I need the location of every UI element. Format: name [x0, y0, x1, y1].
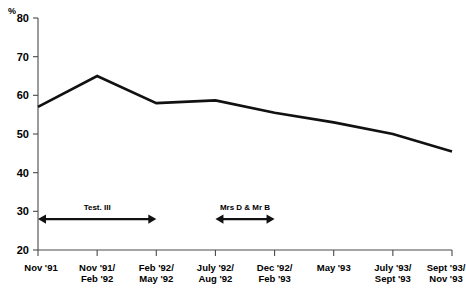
x-tick-label: Feb '92 [81, 273, 113, 284]
y-tick-label: 70 [17, 51, 29, 63]
x-tick-label: Sept '93/ [427, 262, 466, 273]
y-tick-label: 80 [17, 12, 29, 24]
x-tick-label: Nov '91 [24, 262, 58, 273]
y-tick-label: 20 [17, 244, 29, 256]
line-chart-figure: 80706050403020 % Nov '91Nov '91/Feb '92F… [0, 0, 466, 288]
x-tick-label: July '93/ [374, 262, 411, 273]
annotations-group: Test. IIIMrs D & Mr B [38, 203, 275, 224]
chart-canvas: 80706050403020 % Nov '91Nov '91/Feb '92F… [0, 0, 466, 288]
y-axis-unit-label: % [8, 6, 16, 16]
x-tick-label: Feb '93 [258, 273, 290, 284]
data-series-group [38, 76, 452, 151]
data-line-series [38, 76, 452, 151]
x-tick-label: May '93 [317, 262, 351, 273]
x-tick-label: Aug '92 [198, 273, 232, 284]
x-tick-marks [38, 250, 452, 256]
annotation-arrow-head-right [148, 214, 156, 223]
x-tick-label: May '92 [139, 273, 173, 284]
x-tick-label: Sept '93 [375, 273, 411, 284]
annotation-1: Test. III [38, 203, 156, 224]
y-tick-label: 30 [17, 205, 29, 217]
annotation-label: Mrs D & Mr B [220, 203, 270, 212]
y-tick-marks [33, 18, 38, 250]
x-tick-label: Feb '92/ [139, 262, 174, 273]
annotation-2: Mrs D & Mr B [215, 203, 274, 224]
x-tick-label: July '92/ [197, 262, 234, 273]
x-tick-labels: Nov '91Nov '91/Feb '92Feb '92/May '92Jul… [24, 262, 465, 284]
annotation-arrow-head-left [215, 214, 223, 223]
annotation-label: Test. III [84, 203, 111, 212]
x-axis-group: Nov '91Nov '91/Feb '92Feb '92/May '92Jul… [24, 250, 465, 284]
y-axis-group: 80706050403020 % [8, 6, 38, 256]
y-tick-labels: 80706050403020 [17, 12, 29, 256]
annotation-arrow-head-right [267, 214, 275, 223]
x-tick-label: Nov '91/ [79, 262, 115, 273]
x-tick-label: Dec '92/ [257, 262, 293, 273]
annotation-arrow-head-left [38, 214, 46, 223]
y-tick-label: 40 [17, 167, 29, 179]
y-tick-label: 60 [17, 89, 29, 101]
x-tick-label: Nov '93 [429, 273, 462, 284]
y-tick-label: 50 [17, 128, 29, 140]
